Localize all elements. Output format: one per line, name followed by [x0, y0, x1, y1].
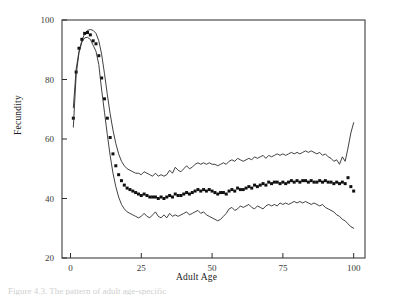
y-tick-label: 20 [45, 253, 55, 263]
data-point-marker [213, 191, 216, 194]
data-point-marker [182, 193, 185, 196]
data-point-marker [262, 182, 265, 185]
y-axis-label: Fecundity [13, 75, 23, 155]
data-point-marker [233, 190, 236, 193]
data-point-marker [131, 190, 134, 193]
y-tick-label: 60 [45, 134, 55, 144]
data-point-marker [219, 191, 222, 194]
data-point-marker [137, 193, 140, 196]
data-point-marker [111, 152, 114, 155]
fecundity-vs-adult-age-chart: 20406080100 0255075100 [0, 0, 393, 295]
data-point-marker [304, 179, 307, 182]
data-point-marker [128, 188, 131, 191]
data-point-marker [293, 181, 296, 184]
data-point-marker [250, 187, 253, 190]
data-point-marker [330, 181, 333, 184]
data-point-marker [341, 181, 344, 184]
data-point-marker [279, 182, 282, 185]
data-point-marker [315, 181, 318, 184]
data-point-marker [236, 187, 239, 190]
data-point-marker [301, 179, 304, 182]
figure-container: 20406080100 0255075100 Fecundity Adult A… [0, 0, 393, 295]
data-point-marker [151, 196, 154, 199]
data-point-marker [228, 190, 231, 193]
data-point-marker [174, 193, 177, 196]
data-point-marker [284, 182, 287, 185]
data-point-marker [148, 196, 151, 199]
data-point-marker [92, 39, 95, 42]
data-point-marker [179, 194, 182, 197]
data-point-marker [318, 179, 321, 182]
data-point-marker [89, 33, 92, 36]
plot-frame-rect [62, 20, 365, 258]
data-point-marker [205, 190, 208, 193]
data-point-marker [188, 193, 191, 196]
data-point-marker [327, 181, 330, 184]
data-point-marker [106, 117, 109, 120]
x-axis-label: Adult Age [0, 272, 393, 282]
data-point-marker [202, 188, 205, 191]
data-point-marker [313, 181, 316, 184]
data-point-marker [239, 188, 242, 191]
data-point-marker [349, 185, 352, 188]
data-point-marker [97, 54, 100, 57]
data-point-marker [310, 179, 313, 182]
data-point-marker [120, 179, 123, 182]
data-point-marker [216, 193, 219, 196]
data-point-marker [222, 191, 225, 194]
data-point-marker [298, 181, 301, 184]
data-point-marker [211, 190, 214, 193]
data-point-marker [287, 181, 290, 184]
figure-caption: Figure 4.3. The pattern of adult age-spe… [8, 287, 393, 295]
data-point-marker [194, 190, 197, 193]
y-tick-label: 100 [41, 15, 55, 25]
data-point-marker [86, 31, 89, 34]
data-point-marker [281, 181, 284, 184]
data-point-marker [245, 187, 248, 190]
data-point-marker [335, 181, 338, 184]
data-point-marker [253, 184, 256, 187]
data-point-marker [114, 164, 117, 167]
data-point-marker [256, 185, 259, 188]
data-point-marker [230, 188, 233, 191]
data-point-marker [191, 191, 194, 194]
data-point-marker [196, 188, 199, 191]
data-point-marker [225, 193, 228, 196]
data-point-marker [143, 193, 146, 196]
data-point-marker [270, 182, 273, 185]
data-point-marker [145, 194, 148, 197]
data-point-marker [154, 196, 157, 199]
data-point-marker [83, 32, 86, 35]
data-point-marker [352, 190, 355, 193]
data-point-marker [126, 187, 129, 190]
data-point-marker [165, 196, 168, 199]
data-point-marker [160, 196, 163, 199]
data-point-marker [267, 181, 270, 184]
data-point-marker [347, 176, 350, 179]
data-point-marker [290, 179, 293, 182]
data-point-marker [103, 97, 106, 100]
y-tick-label: 40 [45, 194, 55, 204]
data-point-marker [332, 182, 335, 185]
data-point-marker [264, 184, 267, 187]
data-point-marker [177, 194, 180, 197]
data-point-marker [324, 179, 327, 182]
data-point-marker [199, 190, 202, 193]
y-tick-label: 80 [45, 75, 55, 85]
data-point-marker [157, 197, 160, 200]
data-point-marker [307, 181, 310, 184]
data-point-marker [117, 173, 120, 176]
data-point-marker [123, 184, 126, 187]
data-point-marker [109, 136, 112, 139]
data-point-marker [168, 194, 171, 197]
data-point-marker [162, 197, 165, 200]
data-point-marker [242, 188, 245, 191]
plot-frame [62, 20, 365, 258]
data-point-marker [94, 42, 97, 45]
data-point-marker [338, 182, 341, 185]
data-point-marker [247, 185, 250, 188]
data-point-marker [296, 179, 299, 182]
data-point-marker [321, 181, 324, 184]
data-point-marker [140, 194, 143, 197]
data-point-marker [344, 182, 347, 185]
